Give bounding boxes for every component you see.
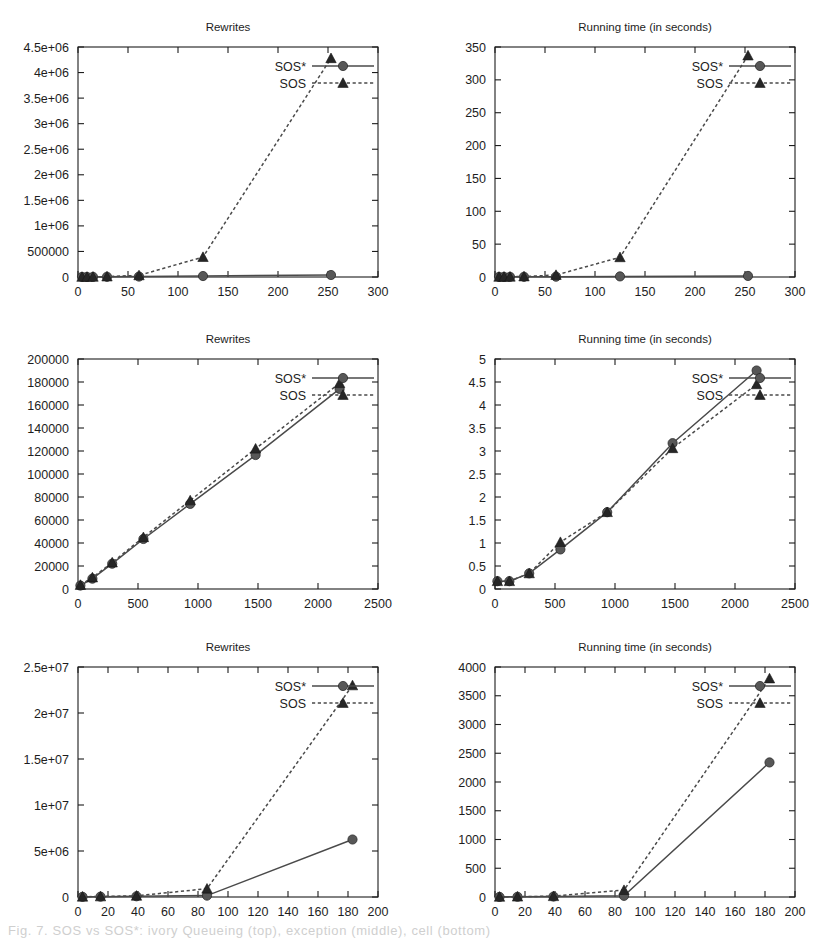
chart-title: Running time (in seconds) <box>578 21 712 33</box>
x-tick-label: 1500 <box>661 597 689 611</box>
x-tick-label: 80 <box>608 905 622 919</box>
series-sos-star <box>77 270 335 281</box>
y-tick-label: 100000 <box>27 468 69 482</box>
x-tick-label: 100 <box>585 285 606 299</box>
y-tick-label: 2.5 <box>469 468 486 482</box>
legend-label-sos-star: SOS* <box>692 60 723 74</box>
y-tick-label: 140000 <box>27 422 69 436</box>
y-tick-label: 0 <box>62 583 69 597</box>
chart-svg: Rewrites05e+061e+071.5e+072e+072.5e+0702… <box>0 620 417 935</box>
y-tick-label: 200 <box>465 139 486 153</box>
y-tick-label: 180000 <box>27 376 69 390</box>
legend-sample-marker <box>338 681 347 690</box>
y-tick-label: 2500 <box>458 747 486 761</box>
x-tick-label: 120 <box>665 905 686 919</box>
x-tick-label: 0 <box>75 285 82 299</box>
x-tick-label: 2000 <box>304 597 332 611</box>
data-point-marker <box>326 270 335 279</box>
legend-sample-marker <box>338 698 348 708</box>
series-sos <box>492 379 762 585</box>
chart-panel-bottom-right: Running time (in seconds)050010001500200… <box>417 620 834 935</box>
x-tick-label: 300 <box>785 285 806 299</box>
series-sos <box>494 673 774 901</box>
chart-svg: Running time (in seconds)00.511.522.533.… <box>417 312 834 627</box>
data-point-marker <box>347 680 357 690</box>
data-point-marker <box>764 673 774 683</box>
y-tick-label: 1.5 <box>469 514 486 528</box>
legend: SOS*SOS <box>275 680 374 711</box>
chart-panel-bottom-left: Rewrites05e+061e+071.5e+072e+072.5e+0702… <box>0 620 417 935</box>
legend-label-sos-star: SOS* <box>692 680 723 694</box>
x-tick-label: 160 <box>725 905 746 919</box>
x-tick-label: 50 <box>121 285 135 299</box>
series-line <box>83 840 353 897</box>
x-tick-label: 180 <box>755 905 776 919</box>
x-tick-label: 0 <box>75 905 82 919</box>
y-tick-label: 2e+07 <box>34 707 69 721</box>
chart-title: Running time (in seconds) <box>578 641 712 653</box>
y-tick-label: 200000 <box>27 353 69 367</box>
x-tick-label: 20 <box>101 905 115 919</box>
y-tick-label: 2.5e+07 <box>23 661 69 675</box>
plot-frame <box>495 667 795 897</box>
x-tick-label: 0 <box>492 905 499 919</box>
y-tick-label: 5 <box>479 353 486 367</box>
legend: SOS*SOS <box>692 680 791 711</box>
x-tick-label: 2500 <box>781 597 809 611</box>
y-tick-label: 3e+06 <box>34 117 69 131</box>
x-tick-label: 250 <box>735 285 756 299</box>
x-tick-label: 40 <box>131 905 145 919</box>
chart-svg: Rewrites05000001e+061.5e+062e+062.5e+063… <box>0 0 417 315</box>
x-tick-label: 200 <box>368 905 389 919</box>
data-point-marker <box>765 758 774 767</box>
data-point-marker <box>198 271 207 280</box>
y-tick-label: 1e+07 <box>34 799 69 813</box>
data-point-marker <box>202 884 212 894</box>
data-point-marker <box>743 50 753 60</box>
chart-panel-top-right: Running time (in seconds)050100150200250… <box>417 0 834 315</box>
y-tick-label: 100 <box>465 205 486 219</box>
x-tick-label: 2000 <box>721 597 749 611</box>
y-tick-label: 0.5 <box>469 560 486 574</box>
x-tick-label: 100 <box>635 905 656 919</box>
legend-label-sos: SOS <box>697 77 723 91</box>
figure-caption: Fig. 7. SOS vs SOS*: ivory Queueing (top… <box>0 926 834 946</box>
legend: SOS*SOS <box>275 60 374 91</box>
x-tick-label: 160 <box>308 905 329 919</box>
y-tick-label: 20000 <box>34 560 69 574</box>
y-tick-label: 0 <box>62 891 69 905</box>
legend-sample-marker <box>755 78 765 88</box>
chart-panel-middle-left: Rewrites02000040000600008000010000012000… <box>0 312 417 627</box>
figure-root: Rewrites05000001e+061.5e+062e+062.5e+063… <box>0 0 834 946</box>
x-tick-label: 50 <box>538 285 552 299</box>
series-line <box>500 762 770 896</box>
y-tick-label: 40000 <box>34 537 69 551</box>
y-tick-label: 80000 <box>34 491 69 505</box>
y-tick-label: 1.5e+07 <box>23 753 69 767</box>
legend-label-sos: SOS <box>280 389 306 403</box>
legend-label-sos: SOS <box>280 77 306 91</box>
data-point-marker <box>615 252 625 262</box>
series-line <box>80 383 339 585</box>
legend-sample-marker <box>755 681 764 690</box>
chart-panel-middle-right: Running time (in seconds)00.511.522.533.… <box>417 312 834 627</box>
series-sos-star <box>76 384 344 590</box>
legend-label-sos: SOS <box>280 697 306 711</box>
legend-label-sos-star: SOS* <box>275 372 306 386</box>
series-sos-star <box>495 758 774 902</box>
y-tick-label: 2 <box>479 491 486 505</box>
x-tick-label: 1000 <box>184 597 212 611</box>
x-tick-label: 0 <box>75 597 82 611</box>
legend: SOS*SOS <box>692 372 791 403</box>
y-tick-label: 250 <box>465 106 486 120</box>
legend-sample-marker <box>755 61 764 70</box>
y-tick-label: 2e+06 <box>34 168 69 182</box>
y-tick-label: 4000 <box>458 661 486 675</box>
plot-frame <box>78 667 378 897</box>
y-tick-label: 50 <box>472 238 486 252</box>
y-tick-label: 3000 <box>458 718 486 732</box>
chart-panel-top-left: Rewrites05000001e+061.5e+062e+062.5e+063… <box>0 0 417 315</box>
x-tick-label: 100 <box>168 285 189 299</box>
chart-svg: Rewrites02000040000600008000010000012000… <box>0 312 417 627</box>
y-tick-label: 160000 <box>27 399 69 413</box>
